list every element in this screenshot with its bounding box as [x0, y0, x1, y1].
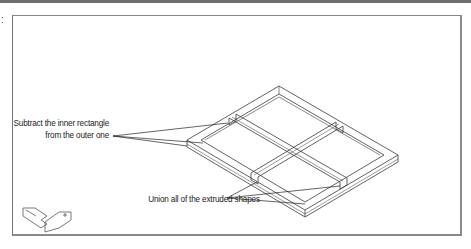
annotation-subtract-line1: Subtract the inner rectangle — [13, 117, 109, 128]
annotation-subtract-line2: from the outer one — [45, 129, 109, 140]
ucs-icon — [23, 208, 71, 232]
cross-bar-b — [251, 122, 343, 184]
annotation-union: Union all of the extruded shapes — [148, 193, 260, 204]
cross-bar-a — [229, 114, 347, 189]
